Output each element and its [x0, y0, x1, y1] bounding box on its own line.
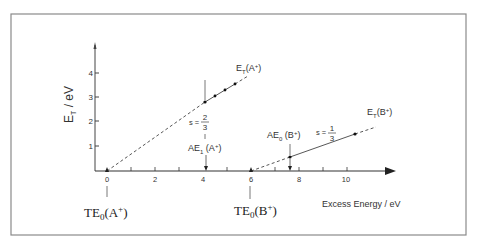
ae1-arrow-icon [204, 155, 208, 171]
x-axis-title: Excess Energy / eV [322, 199, 401, 209]
x-tick-6: 6 [249, 175, 253, 184]
series-b-label: ET(B+) [367, 107, 392, 119]
x-tick-2: 2 [153, 175, 157, 184]
y-tick-2: 2 [89, 117, 94, 126]
y-tick-1: 1 [89, 142, 94, 151]
svg-text:3: 3 [330, 134, 335, 143]
svg-text:s =: s = [189, 118, 200, 127]
y-tick-4: 4 [89, 69, 94, 78]
svg-text:1: 1 [330, 124, 335, 133]
x-axis [95, 167, 396, 175]
te0b-label: TE0(B+) [234, 202, 277, 220]
x-axis-arrow-icon [385, 167, 396, 175]
energy-diagram: 0 2 4 6 8 10 1 2 3 4 ET / eV ET(A+) s = … [0, 0, 477, 247]
series-a-line [107, 76, 248, 171]
ae0-label: AE0 (B+) [267, 130, 300, 142]
svg-text:2: 2 [203, 113, 208, 122]
x-tick-labels: 0 2 4 6 8 10 [105, 175, 350, 184]
y-tick-3: 3 [89, 93, 94, 102]
y-axis-title: ET / eV [62, 86, 77, 123]
te0a-label: TE0(A+) [84, 204, 128, 222]
ae1-label: AE1 (A+) [188, 143, 221, 155]
ae0-arrow-icon [288, 159, 292, 171]
svg-text:3: 3 [203, 123, 208, 132]
slope-a-label: s = 2 3 [189, 113, 209, 132]
x-tick-10: 10 [342, 175, 350, 184]
x-tick-8: 8 [297, 175, 301, 184]
x-tick-0: 0 [105, 175, 109, 184]
slope-b-label: s = 1 3 [316, 124, 336, 143]
y-axis [94, 42, 100, 171]
svg-text:s =: s = [316, 128, 327, 137]
y-tick-labels: 1 2 3 4 [89, 69, 94, 151]
series-a-label: ET(A+) [236, 63, 261, 75]
x-tick-4: 4 [201, 175, 205, 184]
